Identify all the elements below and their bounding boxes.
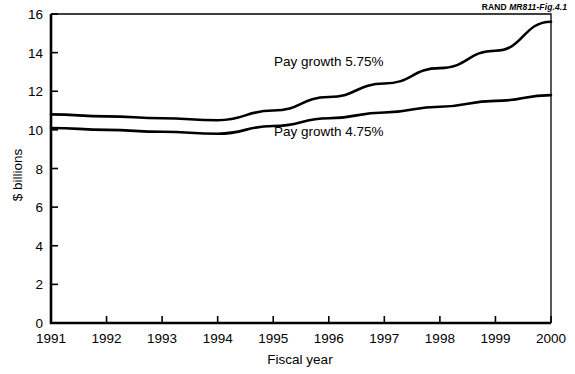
- x-tick-label: 1996: [314, 331, 344, 346]
- x-axis-title: Fiscal year: [267, 352, 333, 367]
- x-tick-label: 1992: [92, 331, 122, 346]
- y-tick-label: 10: [28, 123, 43, 138]
- x-tick-label: 2000: [536, 331, 566, 346]
- y-axis-tick-labels: 0246810121416: [28, 7, 44, 331]
- y-tick-label: 0: [35, 316, 43, 331]
- series-lines: [51, 22, 551, 134]
- x-tick-label: 1995: [258, 331, 288, 346]
- y-tick-label: 2: [35, 277, 43, 292]
- x-tick-label: 1997: [369, 331, 399, 346]
- x-tick-label: 1994: [203, 331, 234, 346]
- y-axis-title: $ billions: [10, 148, 25, 201]
- line-chart: 0246810121416 19911992199319941995199619…: [0, 0, 575, 374]
- y-tick-label: 14: [28, 46, 44, 61]
- x-axis-tick-labels: 1991199219931994199519961997199819992000: [36, 331, 566, 346]
- figure-container: RAND MR811-Fig.4.1 0246810121416 1991199…: [0, 0, 575, 374]
- x-tick-label: 1991: [36, 331, 66, 346]
- x-tick-label: 1998: [425, 331, 455, 346]
- x-tick-label: 1993: [147, 331, 177, 346]
- y-tick-label: 12: [28, 84, 43, 99]
- series-annotation-2: Pay growth 4.75%: [274, 124, 384, 139]
- y-tick-label: 4: [35, 239, 43, 254]
- series-line-1: [51, 22, 551, 120]
- y-tick-label: 16: [28, 7, 43, 22]
- y-tick-label: 8: [35, 162, 43, 177]
- series-annotation-1: Pay growth 5.75%: [274, 54, 384, 69]
- y-tick-label: 6: [35, 200, 43, 215]
- x-tick-label: 1999: [480, 331, 510, 346]
